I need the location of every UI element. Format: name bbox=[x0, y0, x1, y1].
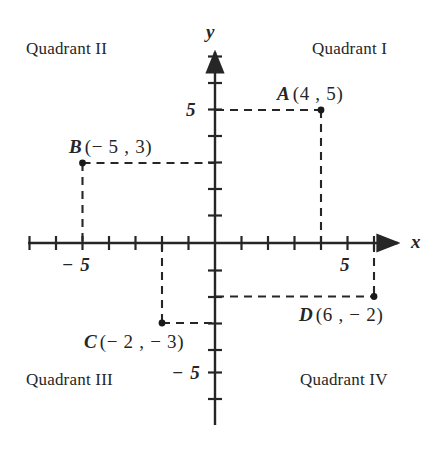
x-axis-label: x bbox=[411, 232, 421, 251]
point-coords-d: (6 , − 2) bbox=[316, 304, 384, 325]
leader-lines-point-a bbox=[216, 110, 321, 242]
point-marker-d[interactable] bbox=[371, 293, 378, 300]
x-tick-label-pos5: 5 bbox=[340, 255, 351, 274]
point-coords-a: (4 , 5) bbox=[293, 83, 344, 104]
quadrant-label-iii: Quadrant III bbox=[26, 371, 113, 388]
leader-lines-point-b bbox=[83, 163, 215, 242]
point-marker-c[interactable] bbox=[159, 320, 166, 327]
point-marker-b[interactable] bbox=[79, 160, 86, 167]
leader-lines-point-c bbox=[162, 244, 214, 323]
point-marker-a[interactable] bbox=[318, 107, 325, 114]
point-label-d: D(6 , − 2) bbox=[299, 305, 383, 324]
quadrant-label-i: Quadrant I bbox=[312, 40, 387, 57]
point-letter-b: B bbox=[69, 136, 82, 157]
point-coords-b: (− 5 , 3) bbox=[85, 136, 153, 157]
point-label-c: C(− 2 , − 3) bbox=[84, 332, 184, 351]
point-letter-a: A bbox=[277, 83, 290, 104]
point-letter-c: C bbox=[84, 331, 97, 352]
point-coords-c: (− 2 , − 3) bbox=[100, 331, 185, 352]
y-axis-label: y bbox=[206, 22, 214, 41]
y-tick-label-neg5: − 5 bbox=[172, 363, 201, 382]
point-letter-d: D bbox=[299, 304, 313, 325]
y-tick-label-pos5: 5 bbox=[186, 100, 197, 119]
point-label-b: B(− 5 , 3) bbox=[69, 137, 152, 156]
coordinate-plane-figure: y x − 5 5 5 − 5 Quadrant II Quadrant I Q… bbox=[0, 0, 439, 449]
quadrant-label-iv: Quadrant IV bbox=[300, 371, 388, 388]
point-label-a: A(4 , 5) bbox=[277, 84, 344, 103]
x-tick-label-neg5: − 5 bbox=[62, 255, 91, 274]
quadrant-label-ii: Quadrant II bbox=[26, 40, 107, 57]
